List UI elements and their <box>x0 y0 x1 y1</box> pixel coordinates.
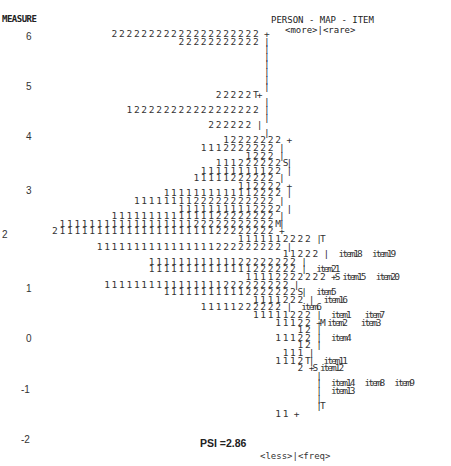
y-tick-label: -2 <box>21 434 30 445</box>
person-item-map: 2 2 2 2 2 2 2 2 2 2 2 2 2 2 2 2 2 2 2 2 … <box>0 30 413 417</box>
y-axis-title: MEASURE <box>2 14 36 24</box>
bottom-axis-labels: <less>|<freq> <box>260 451 330 461</box>
psi-annotation: PSI =2.86 <box>200 437 246 449</box>
map-row: 1 1 + <box>0 410 413 418</box>
map-title: PERSON - MAP - ITEM <box>271 15 374 25</box>
